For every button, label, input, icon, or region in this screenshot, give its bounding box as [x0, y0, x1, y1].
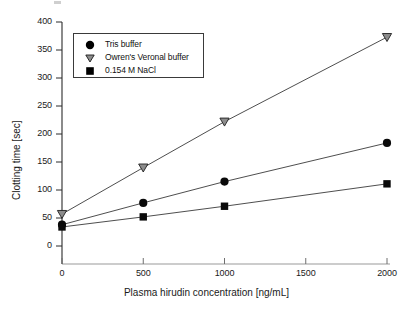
x-tick-label: 0	[37, 268, 87, 278]
y-axis-title: Clotting time [sec]	[11, 121, 22, 200]
y-tick-label: 350	[14, 44, 52, 54]
x-tick-label: 1500	[281, 268, 331, 278]
y-tick-label: 0	[14, 240, 52, 250]
y-tick-label: 50	[14, 212, 52, 222]
x-tick-label: 1000	[200, 268, 250, 278]
plot-area	[0, 0, 413, 310]
legend-item-label: Tris buffer	[105, 38, 142, 51]
triangle-marker-icon	[84, 51, 100, 64]
circle-marker-icon	[84, 38, 100, 51]
y-tick-label: 250	[14, 100, 52, 110]
y-tick-label: 400	[14, 16, 52, 26]
x-axis-title: Plasma hirudin concentration [ng/mL]	[0, 287, 413, 298]
square-marker-icon	[84, 64, 100, 77]
legend-item-label: Owren's Veronal buffer	[105, 51, 189, 64]
chart-figure: 050100150200250300350400 050010001500200…	[0, 0, 413, 310]
legend-item: 0.154 M NaCl	[74, 64, 205, 77]
x-tick-label: 2000	[362, 268, 412, 278]
x-axis-ticks	[62, 258, 387, 264]
legend-item: Tris buffer	[74, 38, 205, 51]
legend-item-label: 0.154 M NaCl	[105, 64, 156, 77]
legend-item: Owren's Veronal buffer	[74, 51, 205, 64]
x-tick-label: 500	[118, 268, 168, 278]
y-tick-label: 300	[14, 72, 52, 82]
chart-legend: Tris buffer Owren's Veronal buffer 0.154…	[73, 33, 204, 78]
